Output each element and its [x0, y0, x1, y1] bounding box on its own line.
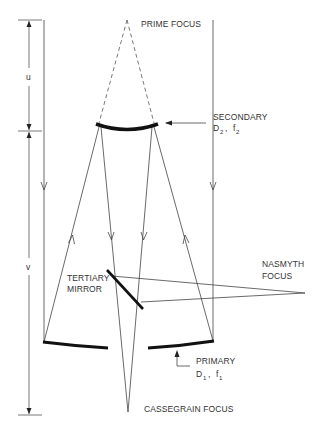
- tertiary-label-line1: TERTIARY: [67, 273, 110, 283]
- nasmyth-label-line1: NASMYTH: [262, 259, 304, 269]
- primary-D-subscript: 1: [203, 375, 207, 381]
- ray-nasmyth-lower: [141, 293, 305, 302]
- secondary-D-symbol: D: [213, 123, 219, 133]
- secondary-D-subscript: 2: [220, 129, 224, 135]
- ray-primary-right-up: [154, 127, 213, 341]
- primary-D-symbol: D: [196, 369, 202, 379]
- mirrors: [43, 124, 214, 348]
- dim-u-label: u: [26, 72, 31, 82]
- primary-separator: ,: [208, 369, 210, 379]
- cassegrain-focus-label: CASSEGRAIN FOCUS: [144, 404, 234, 414]
- secondary-to-cassegrain-rays: [101, 127, 152, 412]
- prime-focus-label: PRIME FOCUS: [141, 19, 201, 29]
- secondary-params: D 2 , f 2: [213, 123, 240, 135]
- secondary-f-subscript: 2: [236, 129, 240, 135]
- primary-pointer-line: [177, 352, 190, 366]
- ray-secondary-right-arrow: [141, 232, 147, 240]
- secondary-pointer: [165, 121, 206, 126]
- primary-to-secondary-rays: [44, 127, 213, 342]
- telescope-optics-diagram: u v: [0, 0, 320, 427]
- secondary-pointer-head: [165, 121, 172, 126]
- diagram-canvas: u v: [0, 0, 320, 427]
- dashed-ray-left: [99, 20, 127, 123]
- primary-pointer-head: [175, 350, 180, 357]
- primary-f-subscript: 1: [219, 375, 223, 381]
- dim-v-label: v: [26, 262, 31, 272]
- primary-pointer: [175, 350, 191, 366]
- ray-secondary-right-down: [128, 127, 152, 412]
- primary-mirror-right: [148, 341, 214, 348]
- secondary-label: SECONDARY: [213, 112, 268, 122]
- dim-u-arrow-top: [27, 21, 32, 27]
- ray-primary-left-up: [44, 127, 99, 342]
- secondary-separator: ,: [225, 123, 227, 133]
- tertiary-label-line2: MIRROR: [67, 284, 102, 294]
- primary-params: D 1 , f 1: [196, 369, 223, 381]
- dashed-ray-right: [127, 20, 154, 123]
- prime-focus-cone: [99, 20, 154, 123]
- primary-mirror-left: [43, 342, 108, 348]
- dim-v-arrow-bottom: [27, 408, 32, 414]
- secondary-mirror: [96, 124, 158, 130]
- dim-u-arrow-bottom: [27, 124, 32, 130]
- tertiary-mirror: [107, 270, 143, 309]
- primary-label: PRIMARY: [196, 356, 236, 366]
- ray-secondary-left-down: [101, 127, 128, 412]
- nasmyth-label-line2: FOCUS: [262, 271, 292, 281]
- dim-v-arrow-top: [27, 132, 32, 138]
